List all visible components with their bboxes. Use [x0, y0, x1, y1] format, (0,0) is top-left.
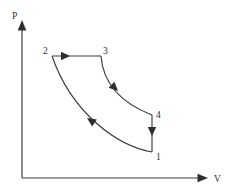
state-label-1: 1 [156, 152, 161, 162]
state-label-2: 2 [43, 46, 48, 56]
pressure-axis-arrow-icon [18, 20, 27, 31]
cycle-paths-group [52, 56, 152, 152]
volume-axis-label: V [214, 174, 221, 184]
direction-arrows-group [61, 52, 156, 136]
pressure-axis-label: P [12, 11, 17, 21]
process-3-to-4-path [101, 56, 152, 115]
state-label-4: 4 [156, 110, 161, 120]
process-4-to-1-arrow-icon [148, 127, 156, 136]
volume-axis-arrow-icon [198, 174, 209, 183]
diagram-canvas: P V 1 2 3 4 [0, 0, 232, 194]
state-label-3: 3 [103, 46, 108, 56]
process-1-to-2-arrow-icon [85, 115, 97, 127]
pv-diagram-figure: P V 1 2 3 4 [0, 0, 232, 194]
process-2-to-3-arrow-icon [61, 52, 70, 60]
process-1-to-2-path [52, 56, 152, 152]
axes-group: P V [12, 11, 221, 184]
